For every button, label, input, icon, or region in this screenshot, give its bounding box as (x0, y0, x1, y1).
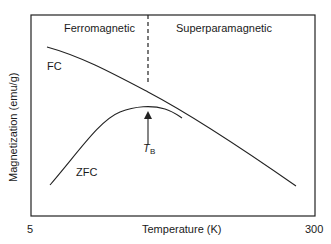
plot-frame (31, 15, 315, 216)
y-axis-label: Magnetization (emu/g) (7, 73, 19, 182)
x-axis-label: Temperature (K) (142, 223, 221, 235)
magnetization-chart: Ferromagnetic Superparamagnetic FC ZFC T… (0, 0, 331, 244)
region-label-ferromagnetic: Ferromagnetic (64, 22, 135, 34)
x-tick-min: 5 (27, 223, 33, 235)
series-label-fc: FC (47, 60, 62, 72)
tb-subscript: B (150, 147, 155, 156)
arrow-up-icon (144, 111, 152, 119)
region-label-superparamagnetic: Superparamagnetic (176, 22, 273, 34)
x-tick-max: 300 (305, 223, 323, 235)
zfc-curve (50, 107, 182, 185)
series-label-zfc: ZFC (76, 166, 97, 178)
